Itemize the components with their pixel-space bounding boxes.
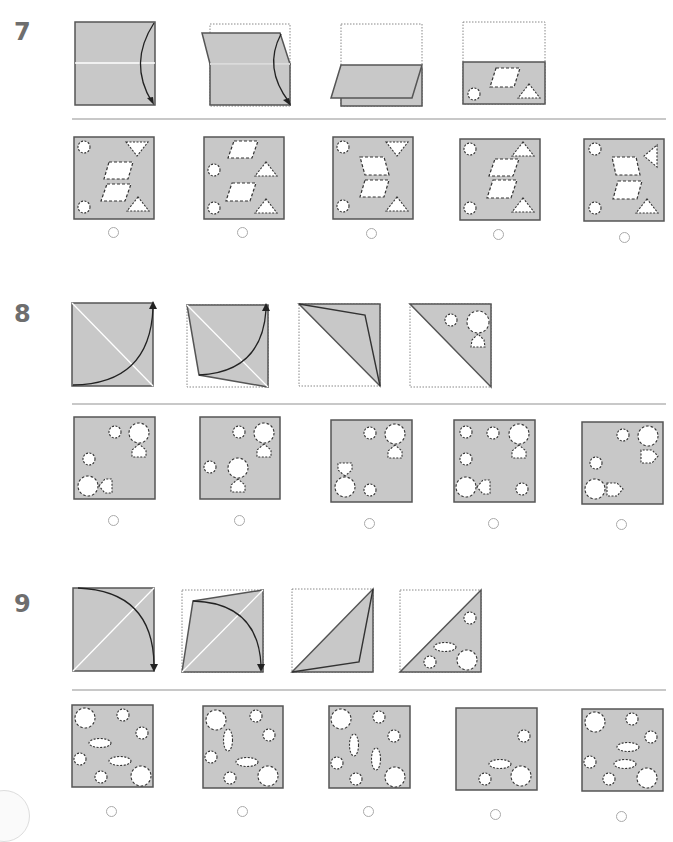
page-corner-decoration — [0, 790, 30, 842]
answer-option-b-radio[interactable] — [237, 227, 248, 238]
answer-option-d-radio[interactable] — [488, 518, 499, 529]
fold-step-3 — [296, 300, 386, 392]
question-number: 7 — [14, 18, 31, 46]
answer-option-e-figure — [580, 707, 666, 793]
separator — [72, 689, 666, 691]
answer-option-d-figure — [454, 706, 540, 792]
answer-option-d-radio[interactable] — [493, 229, 504, 240]
answer-option-b-figure — [201, 703, 287, 789]
fold-step-4 — [407, 300, 497, 392]
answer-option-d-figure — [458, 135, 544, 221]
answer-option-c-radio[interactable] — [363, 806, 374, 817]
fold-step-1 — [70, 585, 160, 677]
answer-option-a-radio[interactable] — [106, 806, 117, 817]
separator — [72, 118, 666, 120]
answer-option-a-figure — [70, 703, 156, 789]
fold-step-2 — [178, 585, 268, 677]
fold-step-2 — [195, 18, 295, 110]
answer-option-c-radio[interactable] — [366, 228, 377, 239]
answer-option-e-figure — [580, 420, 666, 506]
separator — [72, 403, 666, 405]
answer-option-b-radio[interactable] — [237, 806, 248, 817]
answer-option-e-radio[interactable] — [619, 232, 630, 243]
question-number: 9 — [14, 590, 31, 618]
answer-option-b-figure — [198, 415, 284, 501]
answer-option-c-figure — [327, 704, 413, 790]
question-number: 8 — [14, 300, 31, 328]
answer-option-a-figure — [72, 415, 158, 501]
fold-step-2 — [184, 300, 274, 392]
answer-option-b-radio[interactable] — [234, 515, 245, 526]
fold-step-3 — [330, 18, 430, 110]
answer-option-b-figure — [202, 135, 288, 221]
fold-step-1 — [70, 300, 160, 392]
answer-option-a-figure — [72, 135, 158, 221]
answer-option-c-figure — [331, 135, 417, 221]
fold-step-4 — [397, 585, 487, 677]
answer-option-d-radio[interactable] — [490, 809, 501, 820]
answer-option-a-radio[interactable] — [108, 515, 119, 526]
answer-option-a-radio[interactable] — [108, 227, 119, 238]
fold-step-1 — [70, 18, 160, 110]
answer-option-e-figure — [582, 137, 668, 223]
answer-option-c-figure — [329, 418, 415, 504]
answer-option-e-radio[interactable] — [616, 811, 627, 822]
answer-option-e-radio[interactable] — [616, 519, 627, 530]
answer-option-c-radio[interactable] — [364, 518, 375, 529]
fold-step-4 — [460, 18, 550, 110]
fold-step-3 — [288, 585, 378, 677]
answer-option-d-figure — [452, 418, 538, 504]
